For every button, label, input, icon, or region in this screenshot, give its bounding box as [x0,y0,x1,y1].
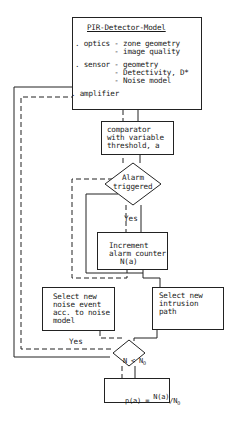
noise-line-4: model [53,317,75,325]
result-lhs: p(a) = [125,397,153,405]
comparator-box: comparator with variable threshold, a [101,121,174,155]
model-line-image-quality: - image quality [75,48,180,56]
result-denominator-sub: O [177,400,180,406]
alarm-decision-line-1: Alarm [122,174,144,182]
increment-line-3: N(a) [120,258,138,266]
pir-detector-model-box: PIR-Detector-Model . optics - zone geome… [72,17,202,110]
model-line-amplifier: . amplifier [71,90,119,98]
count-decision-label: N < NO [115,349,146,365]
model-title: PIR-Detector-Model [87,24,166,32]
model-line-noise-model: - Noise model [75,77,171,85]
count-yes-label: Yes [69,337,83,346]
count-decision-subscript: O [143,360,146,366]
result-numerator: N(a) [153,393,169,401]
increment-counter-box: Increment alarm counter N(a) [97,232,168,270]
intrusion-line-3: path [159,308,177,316]
intrusion-path-box: Select new intrusion path [152,287,224,330]
noise-event-box: Select new noise event acc. to noise mod… [42,287,115,331]
alarm-decision-line-2: triggered [113,183,152,191]
comparator-line-3: threshold, a [107,142,159,150]
count-decision-text: N < N [123,357,143,365]
probability-result-box: p(a) = N(a)/NO [104,378,170,403]
result-formula: p(a) = N(a)/NO [109,389,180,414]
alarm-yes-label: Yes [124,214,138,223]
